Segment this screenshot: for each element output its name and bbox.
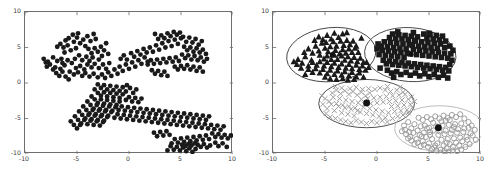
data-point bbox=[312, 43, 318, 49]
data-point bbox=[101, 103, 106, 108]
data-point bbox=[366, 86, 371, 91]
y-tick-label: 10 bbox=[2, 8, 21, 14]
data-point bbox=[378, 95, 383, 100]
data-point bbox=[400, 41, 406, 47]
data-point bbox=[120, 92, 125, 97]
data-point bbox=[319, 93, 324, 98]
data-point bbox=[172, 64, 177, 69]
data-point bbox=[127, 95, 132, 100]
data-point bbox=[178, 119, 183, 124]
data-point bbox=[390, 116, 395, 121]
data-point bbox=[336, 104, 341, 109]
data-point bbox=[99, 114, 104, 119]
data-point bbox=[133, 95, 138, 100]
data-point bbox=[191, 135, 196, 140]
data-point bbox=[61, 45, 66, 50]
y-tick-label: -10 bbox=[2, 150, 21, 156]
data-point bbox=[442, 132, 447, 137]
data-point bbox=[66, 36, 71, 41]
figure-two-panel-clustering: -10-50510-10-50510 -10-50510-10-50510 bbox=[0, 0, 493, 176]
series-cluster-2-squares bbox=[374, 29, 455, 81]
data-point bbox=[370, 112, 375, 117]
data-point bbox=[167, 56, 172, 61]
data-point bbox=[71, 39, 76, 44]
data-point bbox=[440, 33, 446, 39]
data-point bbox=[102, 90, 107, 95]
data-point bbox=[406, 119, 411, 124]
data-point bbox=[378, 85, 383, 90]
data-point bbox=[164, 129, 169, 134]
data-point bbox=[178, 30, 183, 35]
data-point bbox=[92, 61, 97, 66]
data-point bbox=[60, 69, 65, 74]
data-point bbox=[295, 56, 301, 62]
y-tick-label: 0 bbox=[2, 79, 21, 85]
data-point bbox=[148, 58, 153, 63]
data-point bbox=[453, 140, 458, 145]
data-point bbox=[445, 137, 450, 142]
data-point bbox=[374, 100, 379, 105]
data-point bbox=[374, 46, 380, 52]
data-point bbox=[333, 116, 338, 121]
x-tick-label: -5 bbox=[321, 156, 327, 162]
data-point bbox=[114, 91, 119, 96]
data-point bbox=[111, 98, 116, 103]
data-point bbox=[204, 51, 209, 56]
data-point bbox=[436, 50, 442, 56]
data-point bbox=[138, 52, 143, 57]
data-point bbox=[114, 84, 119, 89]
data-point bbox=[426, 31, 432, 37]
data-point bbox=[76, 70, 81, 75]
data-point bbox=[163, 45, 168, 50]
data-point bbox=[171, 118, 176, 123]
panel-left-raw-scatter: -10-50510-10-50510 bbox=[0, 0, 246, 176]
data-point bbox=[197, 65, 202, 70]
data-point bbox=[185, 135, 190, 140]
data-point bbox=[117, 64, 122, 69]
data-point bbox=[411, 30, 417, 36]
data-point bbox=[419, 39, 425, 45]
data-point bbox=[387, 99, 392, 104]
data-point bbox=[57, 73, 62, 78]
data-point bbox=[331, 95, 336, 100]
y-tick-label: 5 bbox=[2, 43, 21, 49]
data-point bbox=[51, 67, 56, 72]
data-point bbox=[123, 62, 128, 67]
data-point bbox=[142, 55, 147, 60]
data-point bbox=[386, 110, 391, 115]
data-point bbox=[395, 29, 401, 35]
data-point bbox=[444, 140, 449, 145]
x-tick-label: 0 bbox=[126, 156, 130, 162]
data-point bbox=[186, 53, 191, 58]
data-point bbox=[83, 71, 88, 76]
data-point bbox=[215, 123, 220, 128]
data-point bbox=[165, 118, 170, 123]
data-point bbox=[377, 114, 382, 119]
data-point bbox=[344, 29, 350, 35]
data-point bbox=[192, 54, 197, 59]
data-point bbox=[168, 34, 173, 39]
data-point bbox=[76, 31, 81, 36]
data-point bbox=[130, 60, 135, 65]
data-point bbox=[133, 64, 138, 69]
data-point bbox=[90, 108, 95, 113]
data-point bbox=[168, 144, 173, 149]
data-point bbox=[85, 62, 90, 67]
data-point bbox=[369, 119, 374, 124]
data-point bbox=[197, 134, 202, 139]
data-point bbox=[394, 40, 400, 46]
data-point bbox=[94, 103, 99, 108]
scatter-canvas-left bbox=[25, 12, 233, 154]
data-point bbox=[157, 108, 162, 113]
data-point bbox=[172, 37, 177, 42]
data-point bbox=[105, 98, 110, 103]
series-all-points bbox=[41, 29, 233, 154]
data-point bbox=[436, 132, 441, 137]
data-point bbox=[103, 76, 108, 81]
data-point bbox=[117, 99, 122, 104]
data-point bbox=[144, 50, 149, 55]
x-tick-label: 0 bbox=[374, 156, 378, 162]
data-point bbox=[331, 30, 337, 36]
data-point bbox=[147, 45, 152, 50]
data-point bbox=[51, 55, 56, 60]
